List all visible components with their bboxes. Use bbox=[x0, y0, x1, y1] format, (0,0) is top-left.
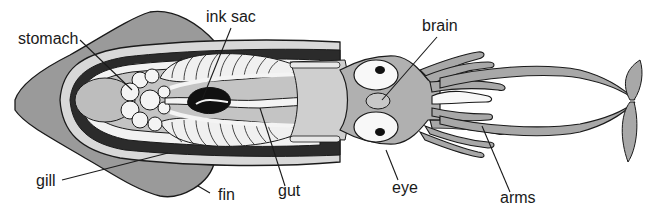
label-fin: fin bbox=[218, 187, 235, 203]
label-arms: arms bbox=[500, 190, 536, 206]
eye-lower bbox=[354, 112, 398, 142]
eye-upper bbox=[354, 60, 398, 90]
label-eye: eye bbox=[392, 180, 418, 196]
squid-illustration bbox=[0, 0, 646, 215]
leader-fin bbox=[198, 186, 210, 193]
label-ink-sac: ink sac bbox=[206, 9, 256, 25]
arms-group bbox=[420, 52, 635, 158]
label-gill: gill bbox=[36, 173, 56, 189]
leader-arms bbox=[482, 126, 510, 192]
leader-eye bbox=[386, 150, 398, 180]
squid-diagram: stomach ink sac brain gill fin gut eye a… bbox=[0, 0, 646, 215]
collar-cartilage-top bbox=[290, 62, 340, 68]
label-gut: gut bbox=[278, 183, 300, 199]
label-brain: brain bbox=[422, 18, 458, 34]
label-stomach: stomach bbox=[18, 31, 78, 47]
neck-region bbox=[290, 60, 349, 140]
collar-cartilage-bottom bbox=[290, 136, 340, 142]
tentacle-club-upper bbox=[625, 60, 642, 100]
